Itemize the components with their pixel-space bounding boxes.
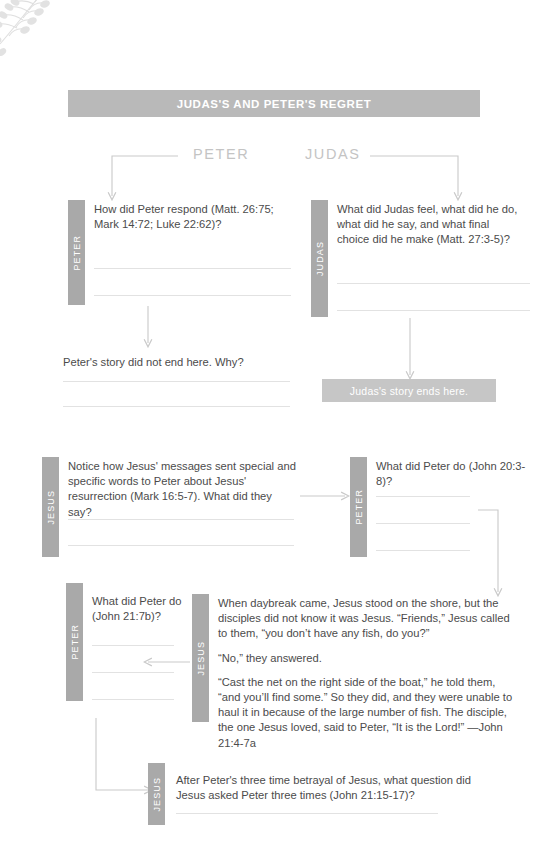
scripture-passage: When daybreak came, Jesus stood on the s… xyxy=(218,596,518,751)
answer-line[interactable] xyxy=(92,699,174,700)
tab-label: PETER xyxy=(70,624,80,660)
scripture-paragraph: When daybreak came, Jesus stood on the s… xyxy=(218,596,518,642)
column-heading-peter: PETER xyxy=(193,146,249,162)
answer-line[interactable] xyxy=(68,545,294,546)
tab-label: PETER xyxy=(72,235,82,271)
answer-line[interactable] xyxy=(94,268,291,269)
answer-line[interactable] xyxy=(376,496,470,497)
answer-line[interactable] xyxy=(376,550,470,551)
answer-line[interactable] xyxy=(92,672,174,673)
tab-jesus-q1: JESUS xyxy=(42,457,59,557)
question-peter-q4: What did Peter do (John 21:7b)? xyxy=(92,594,202,624)
scripture-paragraph: “No,” they answered. xyxy=(218,651,518,666)
tab-jesus-scripture: JESUS xyxy=(192,594,209,722)
answer-line[interactable] xyxy=(68,519,294,520)
answer-line[interactable] xyxy=(63,406,290,407)
answer-line[interactable] xyxy=(337,283,530,284)
answer-line[interactable] xyxy=(94,295,291,296)
tab-label: JESUS xyxy=(46,490,56,525)
judas-story-ends-bar: Judas's story ends here. xyxy=(322,379,496,402)
connector-peter-down xyxy=(112,156,178,196)
tab-jesus-q2: JESUS xyxy=(148,763,165,825)
answer-line[interactable] xyxy=(92,645,174,646)
connector-peter-q4-to-final xyxy=(96,718,148,790)
judas-story-ends-text: Judas's story ends here. xyxy=(350,385,468,397)
column-heading-judas: JUDAS xyxy=(305,146,361,162)
tab-label: JESUS xyxy=(152,777,162,812)
tab-judas-q1: JUDAS xyxy=(311,200,328,317)
tab-peter-q4: PETER xyxy=(66,583,83,701)
page-banner: JUDAS'S AND PETER'S REGRET xyxy=(68,90,480,117)
question-peter-q1: How did Peter respond (Matt. 26:75; Mark… xyxy=(94,202,279,232)
tab-label: PETER xyxy=(354,489,364,525)
tab-peter-q3: PETER xyxy=(350,457,367,557)
question-peter-q2: Peter's story did not end here. Why? xyxy=(63,355,323,370)
worksheet-page: JUDAS'S AND PETER'S REGRET PETER JUDAS xyxy=(0,0,537,855)
scripture-paragraph: “Cast the net on the right side of the b… xyxy=(218,675,518,751)
question-judas-q1: What did Judas feel, what did he do, wha… xyxy=(337,202,522,248)
connector-peter-q3-to-scripture xyxy=(478,510,498,592)
answer-line[interactable] xyxy=(63,381,290,382)
connector-judas-down xyxy=(370,156,458,196)
page-title: JUDAS'S AND PETER'S REGRET xyxy=(177,98,371,110)
tab-peter-q1: PETER xyxy=(68,200,85,305)
question-jesus-q2: After Peter's three time betrayal of Jes… xyxy=(176,773,488,803)
answer-line[interactable] xyxy=(337,310,530,311)
leafy-vine-icon xyxy=(0,0,94,92)
answer-line[interactable] xyxy=(376,523,470,524)
tab-label: JUDAS xyxy=(315,241,325,276)
question-peter-q3: What did Peter do (John 20:3-8)? xyxy=(376,459,526,489)
tab-label: JESUS xyxy=(196,641,206,676)
question-jesus-q1: Notice how Jesus' messages sent special … xyxy=(68,459,296,520)
answer-line[interactable] xyxy=(176,813,438,814)
